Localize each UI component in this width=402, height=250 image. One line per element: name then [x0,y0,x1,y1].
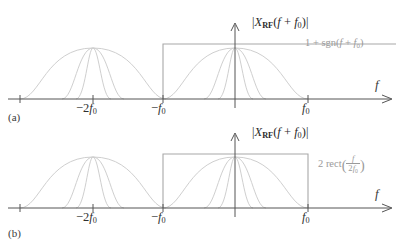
y-axis-a [231,23,239,108]
spectrum-curves-a [20,48,308,99]
panel-a-tick-label-f0: f0 [302,102,310,117]
narrow-lobe-left-inner-a [62,48,124,99]
panel-b-letter: (b) [8,228,21,239]
narrow-lobe-left-inner2-b [76,157,111,208]
panel-b-tick-label-f0: f0 [302,211,310,226]
x-axis-b [8,204,392,212]
broad-lobe-left-a [20,48,166,99]
narrow-lobe-left-inner2-a [76,48,111,99]
panel-a-tick-label-minus-f0: −f0 [151,102,166,117]
broad-lobe-left-b [20,157,166,208]
panel-a-axis-label-f: f [375,78,379,91]
panel-a-plot [0,0,402,125]
figure-root: |XRF(f + f0)| 1 + sgn(f + f0) −2f0 −f0 f… [0,0,402,250]
panel-b-y-axis-title: |XRF(f + f0)| [252,126,308,141]
spectrum-curves-b [20,157,308,208]
panel-a-letter: (a) [8,112,20,123]
x-axis-a [8,95,392,103]
panel-a-y-axis-title: |XRF(f + f0)| [252,16,308,31]
panel-b-plot [0,125,402,250]
panel-b-axis-label-f: f [375,187,379,200]
panel-a-annotation: 1 + sgn(f + f0) [305,38,364,50]
panel-a-tick-label-minus-2f0: −2f0 [76,102,97,117]
y-axis-b [231,133,239,217]
panel-b-tick-label-minus-2f0: −2f0 [76,211,97,226]
panel-b-annotation: 2 rect(f2f0) [318,154,365,174]
narrow-lobe-left-inner-b [62,157,124,208]
panel-b-tick-label-minus-f0: −f0 [151,211,166,226]
